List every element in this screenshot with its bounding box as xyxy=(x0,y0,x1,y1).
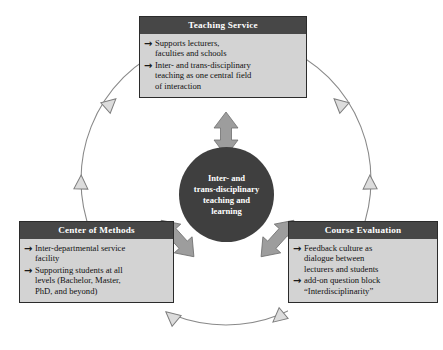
bullet-item: → Supports lecturers, faculties and scho… xyxy=(144,38,301,59)
node-body-teaching-service: → Supports lecturers, faculties and scho… xyxy=(140,34,306,98)
node-title-course-evaluation: Course Evaluation xyxy=(289,222,437,239)
bullet-item: → Supporting students at all levels (Bac… xyxy=(24,265,168,297)
bullet-item: → Inter- and trans-disciplinary teaching… xyxy=(144,60,301,92)
bullet-item: → Feedback culture as dialogue between l… xyxy=(293,243,432,275)
arrow-bullet-icon: → xyxy=(293,275,304,287)
bullet-text: Inter-departmental service facility xyxy=(35,243,168,264)
node-box-course-evaluation[interactable]: Course Evaluation → Feedback culture as … xyxy=(288,221,438,303)
node-title-center-of-methods: Center of Methods xyxy=(20,222,173,239)
arrow-bullet-icon: → xyxy=(144,60,155,72)
center-circle-node[interactable]: Inter- and trans-disciplinary teaching a… xyxy=(179,147,274,242)
bullet-item: → add-on question block “Interdisciplina… xyxy=(293,275,432,296)
bullet-text: Supporting students at all levels (Bache… xyxy=(35,265,168,297)
bullet-text: Feedback culture as dialogue between lec… xyxy=(304,243,432,275)
arrow-bullet-icon: → xyxy=(293,243,304,255)
node-title-teaching-service: Teaching Service xyxy=(140,17,306,34)
bullet-text: Inter- and trans-disciplinary teaching a… xyxy=(155,60,301,92)
bullet-item: → Inter-departmental service facility xyxy=(24,243,168,264)
bullet-text: add-on question block “Interdisciplinari… xyxy=(304,275,432,296)
node-body-center-of-methods: → Inter-departmental service facility → … xyxy=(20,239,173,303)
center-circle-label: Inter- and trans-disciplinary teaching a… xyxy=(190,173,263,217)
arrow-bullet-icon: → xyxy=(144,38,155,50)
node-body-course-evaluation: → Feedback culture as dialogue between l… xyxy=(289,239,437,303)
arrow-bullet-icon: → xyxy=(24,243,35,255)
diagram-canvas: Teaching Service → Supports lecturers, f… xyxy=(0,0,443,350)
node-box-teaching-service[interactable]: Teaching Service → Supports lecturers, f… xyxy=(139,16,307,98)
bullet-text: Supports lecturers, faculties and school… xyxy=(155,38,301,59)
arrow-bullet-icon: → xyxy=(24,265,35,277)
node-box-center-of-methods[interactable]: Center of Methods → Inter-departmental s… xyxy=(19,221,174,303)
